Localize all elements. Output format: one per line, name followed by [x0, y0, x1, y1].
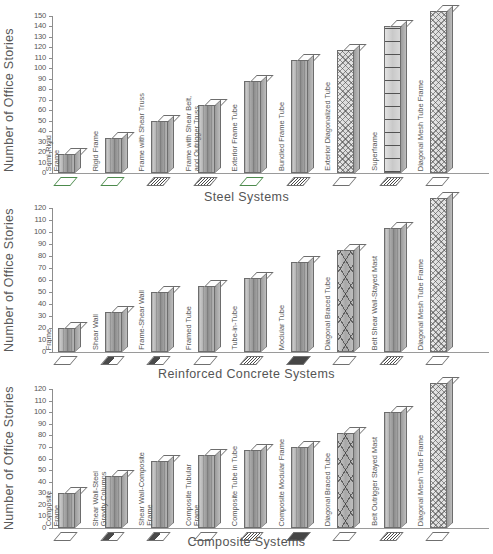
y-axis-tick-label: 80: [24, 85, 46, 93]
bar-side-face: [401, 21, 407, 173]
y-axis-tick: [49, 389, 53, 390]
y-axis-tick-label: 150: [24, 12, 46, 20]
bar-side-face: [168, 115, 174, 173]
y-axis-tick: [49, 447, 53, 448]
x-axis-line: [52, 173, 489, 174]
y-axis-tick: [49, 482, 53, 483]
bar-face: [384, 412, 401, 528]
bar-4: [198, 286, 215, 352]
y-axis-tick: [49, 16, 53, 17]
bar-9: [430, 11, 447, 173]
y-axis-tick: [49, 401, 53, 402]
bar-5: [244, 450, 261, 528]
y-axis-tick: [49, 292, 53, 293]
y-axis-tick: [49, 121, 53, 122]
y-axis-tick-label: 120: [24, 385, 46, 393]
bar-6: [291, 262, 308, 352]
plan-icon-3: [150, 177, 167, 186]
bar-side-face: [354, 428, 360, 528]
y-axis-tick-label: 90: [24, 75, 46, 83]
chart-panel-steel-systems: Number of Office Stories 010203040506070…: [0, 0, 493, 196]
bar-side-face: [215, 100, 221, 173]
bar-side-face: [215, 281, 221, 352]
y-axis-tick-label: 10: [24, 159, 46, 167]
y-axis-tick-label: 40: [24, 300, 46, 308]
y-axis-tick-label: 0: [24, 524, 46, 532]
plan-icon-1: [57, 177, 74, 186]
bar-side-face: [308, 442, 314, 528]
y-axis-tick-label: 0: [24, 348, 46, 356]
y-axis-tick-label: 90: [24, 240, 46, 248]
bar-7: [337, 50, 354, 174]
bar-6: [291, 60, 308, 173]
plan-icon-4: [197, 177, 214, 186]
y-axis-tick-label: 100: [24, 408, 46, 416]
bar-label-3: Frame with Shear Truss: [138, 93, 146, 171]
bar-label-6: Modular Tube: [278, 305, 286, 350]
bar-8: [384, 412, 401, 528]
y-axis-tick-label: 40: [24, 478, 46, 486]
bar-label-5: Exterior Frame Tube: [231, 104, 239, 171]
bar-face: [430, 383, 447, 528]
bar-label-1: Semi-Rigid Frame: [45, 135, 62, 171]
bar-face: [198, 286, 215, 352]
y-axis-tick-label: 20: [24, 148, 46, 156]
bar-5: [244, 81, 261, 173]
bar-side-face: [447, 5, 453, 173]
plan-icon-1: [57, 356, 74, 365]
bar-label-7: Diagonal Braced Tube: [324, 277, 332, 350]
y-axis-tick-label: 50: [24, 117, 46, 125]
y-axis-tick: [49, 68, 53, 69]
y-axis-tick-label: 110: [24, 397, 46, 405]
bar-label-6: Composite Modular Frame: [278, 439, 286, 527]
y-axis-tick-label: 110: [24, 216, 46, 224]
y-axis-tick-label: 10: [24, 512, 46, 520]
bar-side-face: [122, 307, 128, 352]
bar-face: [337, 433, 354, 528]
y-axis-tick: [49, 424, 53, 425]
bar-face: [291, 447, 308, 528]
y-axis-tick-label: 50: [24, 288, 46, 296]
y-axis-tick: [49, 26, 53, 27]
x-axis-line: [52, 352, 489, 353]
y-axis-tick-label: 70: [24, 96, 46, 104]
y-axis-tick-label: 0: [24, 169, 46, 177]
y-axis-tick-label: 60: [24, 455, 46, 463]
bar-label-8: Superframe: [371, 132, 379, 171]
bar-side-face: [168, 455, 174, 528]
bar-label-5: Composite Tube in Tube: [231, 446, 239, 526]
y-axis-tick: [49, 110, 53, 111]
plan-icon-3: [150, 356, 167, 365]
plan-icon-4: [197, 356, 214, 365]
plan-icon-6: [290, 356, 307, 365]
bar-face: [151, 121, 168, 173]
plot-area-composite: 0102030405060708090100110120Composite Fr…: [0, 376, 493, 554]
bar-label-3: Frame-Shear Wall: [138, 290, 146, 350]
y-axis-tick: [49, 244, 53, 245]
bar-side-face: [354, 245, 360, 352]
plan-icon-2: [104, 356, 121, 365]
bar-label-1: Composite Frame: [45, 491, 62, 526]
plan-icon-8: [383, 177, 400, 186]
bar-face: [430, 198, 447, 352]
bar-7: [337, 250, 354, 352]
y-axis-tick: [49, 470, 53, 471]
plan-icon-9: [429, 356, 446, 365]
chart-panel-composite-systems: Number of Office Stories 010203040506070…: [0, 376, 493, 554]
bar-face: [105, 312, 122, 352]
y-axis-tick: [49, 79, 53, 80]
bar-3: [151, 121, 168, 173]
y-axis-tick: [49, 316, 53, 317]
plot-area-steel: 0102030405060708090100110120130140150Sem…: [0, 0, 493, 196]
y-axis-tick: [49, 131, 53, 132]
y-axis-tick-label: 10: [24, 336, 46, 344]
bar-face: [244, 81, 261, 173]
bar-side-face: [308, 55, 314, 173]
bar-label-5: Tube-in-Tube: [231, 306, 239, 350]
y-axis-tick-label: 100: [24, 64, 46, 72]
y-axis-tick-label: 30: [24, 489, 46, 497]
bar-side-face: [308, 257, 314, 352]
y-axis-tick: [49, 58, 53, 59]
y-axis-tick: [49, 173, 53, 174]
y-axis-tick: [49, 268, 53, 269]
